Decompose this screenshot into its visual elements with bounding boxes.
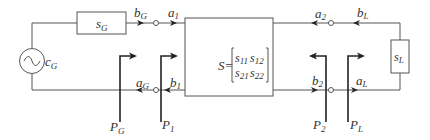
a2-label: a2: [315, 6, 327, 22]
port1-top-node: [154, 21, 159, 26]
b1-label: b1: [170, 75, 181, 91]
port2-bottom-node: [329, 88, 334, 93]
bottom-output-wire: [273, 73, 400, 90]
PL-label: PL: [349, 117, 363, 134]
PG-label: PG: [109, 119, 125, 136]
aL-label: aL: [356, 73, 368, 89]
b2-label: b2: [312, 73, 324, 89]
voltage-source-icon: [20, 49, 45, 74]
source-label: cG: [45, 54, 58, 71]
P1-label: P1: [161, 117, 174, 134]
two-port-network-diagram: cG sG bG a1 aG b1 S= s11 s12 s21 s22 sL …: [0, 0, 430, 140]
s-matrix-prefix: S=: [218, 58, 233, 73]
reference-plane-PG: [120, 53, 137, 123]
bL-label: bL: [357, 5, 369, 21]
P2-label: P2: [312, 117, 326, 134]
port1-bottom-node: [154, 88, 159, 93]
top-output-wire: [273, 23, 400, 40]
bottom-left-wire: [32, 74, 185, 90]
bG-label: bG: [134, 5, 148, 21]
port2-top-node: [329, 21, 334, 26]
top-left-wire: [32, 23, 77, 48]
a1-label: a1: [168, 5, 179, 21]
aG-label: aG: [136, 75, 150, 91]
